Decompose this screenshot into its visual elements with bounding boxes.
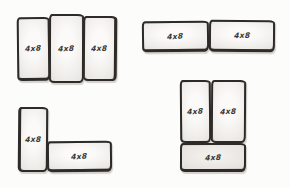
sheet-size-label: 4x8 [91, 44, 108, 54]
sheet-size-label: 4x8 [220, 107, 237, 117]
sheet-size-label: 4x8 [234, 31, 251, 41]
plywood-sheet: 4x8 [49, 14, 84, 83]
plywood-sheet: 4x8 [211, 80, 246, 143]
plywood-sheet: 4x8 [142, 21, 209, 53]
plywood-sheet: 4x8 [209, 20, 275, 53]
sketch-canvas: 4x8 4x8 4x8 4x8 4x8 4x8 4x8 4x8 4x8 [0, 0, 290, 188]
sheet-size-label: 4x8 [71, 151, 88, 161]
sheet-size-label: 4x8 [25, 43, 42, 53]
sheet-size-label: 4x8 [187, 106, 204, 116]
plywood-sheet: 4x8 [180, 80, 211, 143]
plywood-sheet: 4x8 [180, 143, 246, 172]
sheet-size-label: 4x8 [58, 44, 75, 54]
sheet-size-label: 4x8 [167, 31, 184, 41]
sheet-size-label: 4x8 [25, 135, 42, 145]
sheet-size-label: 4x8 [205, 152, 222, 162]
plywood-sheet: 4x8 [18, 107, 49, 172]
plywood-sheet: 4x8 [83, 16, 118, 81]
plywood-sheet: 4x8 [47, 141, 112, 173]
plywood-sheet: 4x8 [17, 17, 51, 81]
